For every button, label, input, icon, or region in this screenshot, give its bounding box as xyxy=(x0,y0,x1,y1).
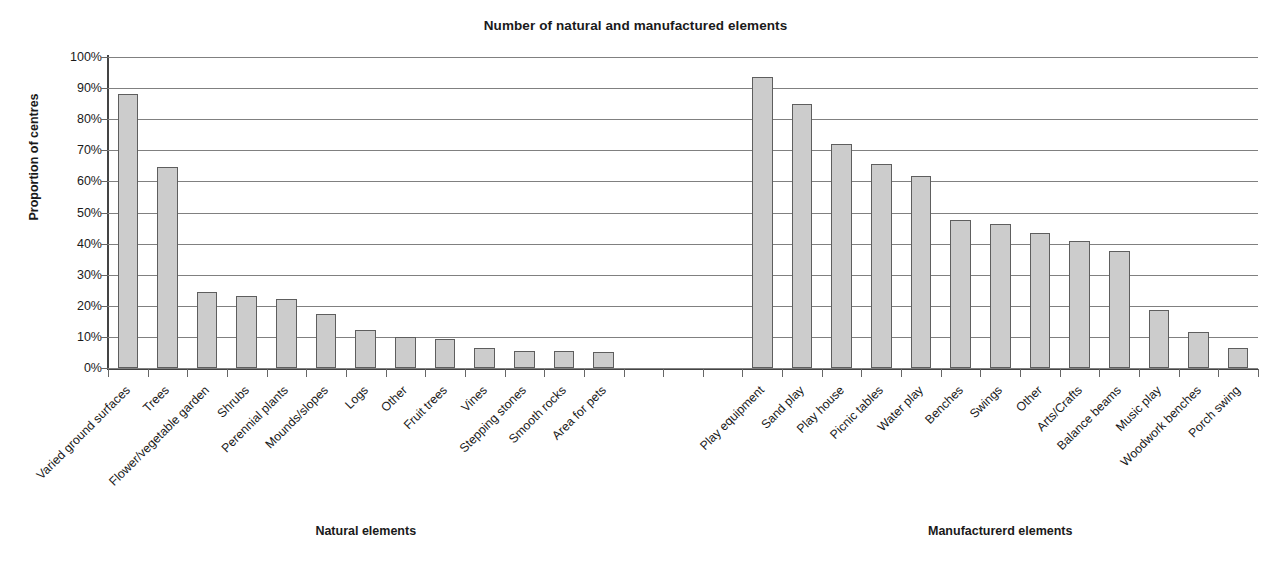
gridline xyxy=(108,181,1258,182)
x-tick-mark xyxy=(782,369,783,377)
y-tick-mark xyxy=(101,244,108,245)
x-tick-mark xyxy=(386,369,387,377)
x-tick-mark xyxy=(861,369,862,377)
x-tick-mark xyxy=(901,369,902,377)
bar[interactable] xyxy=(1149,310,1170,368)
y-tick-label: 80% xyxy=(58,112,102,126)
bar[interactable] xyxy=(197,292,218,368)
x-tick-mark xyxy=(1179,369,1180,377)
bar[interactable] xyxy=(514,351,535,368)
x-tick-mark xyxy=(703,369,704,377)
x-tick-mark xyxy=(1020,369,1021,377)
gridline xyxy=(108,150,1258,151)
x-tick-mark xyxy=(663,369,664,377)
x-tick-mark xyxy=(1139,369,1140,377)
y-tick-label: 20% xyxy=(58,299,102,313)
bar[interactable] xyxy=(316,314,337,368)
x-tick-mark xyxy=(227,369,228,377)
bar[interactable] xyxy=(157,167,178,368)
bar[interactable] xyxy=(1030,233,1051,368)
bar[interactable] xyxy=(792,104,813,368)
x-tick-mark xyxy=(822,369,823,377)
x-tick-mark xyxy=(1258,369,1259,377)
x-tick-mark xyxy=(1060,369,1061,377)
bar[interactable] xyxy=(593,352,614,368)
x-tick-mark xyxy=(346,369,347,377)
x-tick-mark xyxy=(465,369,466,377)
plot-area xyxy=(108,57,1258,368)
y-tick-label: 0% xyxy=(58,361,102,375)
y-tick-mark xyxy=(101,57,108,58)
y-tick-mark xyxy=(101,275,108,276)
x-tick-mark xyxy=(1099,369,1100,377)
bar[interactable] xyxy=(474,348,495,368)
bar[interactable] xyxy=(1069,241,1090,368)
x-tick-mark xyxy=(108,369,109,377)
y-axis-title: Proportion of centres xyxy=(27,37,41,277)
x-tick-mark xyxy=(267,369,268,377)
x-axis-group-title: Manufacturerd elements xyxy=(928,524,1072,538)
y-tick-label: 70% xyxy=(58,143,102,157)
gridline xyxy=(108,213,1258,214)
y-tick-label: 90% xyxy=(58,81,102,95)
y-tick-mark xyxy=(101,119,108,120)
x-tick-mark xyxy=(624,369,625,377)
y-tick-mark xyxy=(101,368,108,369)
y-tick-mark xyxy=(101,88,108,89)
x-tick-mark xyxy=(425,369,426,377)
chart-page: Number of natural and manufactured eleme… xyxy=(0,0,1271,572)
x-tick-mark xyxy=(742,369,743,377)
bar[interactable] xyxy=(554,351,575,368)
y-tick-label: 100% xyxy=(58,50,102,64)
bar[interactable] xyxy=(1109,251,1130,368)
gridline xyxy=(108,57,1258,58)
bar[interactable] xyxy=(911,176,932,368)
bar[interactable] xyxy=(276,299,297,368)
bar[interactable] xyxy=(752,77,773,368)
bar[interactable] xyxy=(831,144,852,368)
gridline xyxy=(108,88,1258,89)
y-tick-mark xyxy=(101,306,108,307)
x-tick-mark xyxy=(544,369,545,377)
bar[interactable] xyxy=(1188,332,1209,368)
x-axis-group-title: Natural elements xyxy=(315,524,416,538)
y-tick-mark xyxy=(101,181,108,182)
y-tick-mark xyxy=(101,150,108,151)
x-tick-mark xyxy=(187,369,188,377)
y-tick-label: 50% xyxy=(58,206,102,220)
chart-title: Number of natural and manufactured eleme… xyxy=(0,18,1271,33)
y-tick-mark xyxy=(101,213,108,214)
bar[interactable] xyxy=(1228,348,1249,368)
y-tick-label: 30% xyxy=(58,268,102,282)
y-tick-label: 10% xyxy=(58,330,102,344)
bar[interactable] xyxy=(395,337,416,368)
bar[interactable] xyxy=(435,339,456,368)
y-tick-label: 40% xyxy=(58,237,102,251)
x-tick-mark xyxy=(505,369,506,377)
gridline xyxy=(108,119,1258,120)
bar[interactable] xyxy=(950,220,971,368)
bar[interactable] xyxy=(990,224,1011,368)
x-tick-mark xyxy=(584,369,585,377)
x-tick-mark xyxy=(306,369,307,377)
y-tick-label: 60% xyxy=(58,174,102,188)
y-tick-mark xyxy=(101,337,108,338)
bar[interactable] xyxy=(871,164,892,368)
bar[interactable] xyxy=(355,330,376,368)
x-tick-mark xyxy=(148,369,149,377)
gridline xyxy=(108,368,1258,369)
x-tick-mark xyxy=(1218,369,1219,377)
x-tick-mark xyxy=(980,369,981,377)
bar[interactable] xyxy=(118,94,139,368)
x-tick-mark xyxy=(941,369,942,377)
bar[interactable] xyxy=(236,296,257,368)
